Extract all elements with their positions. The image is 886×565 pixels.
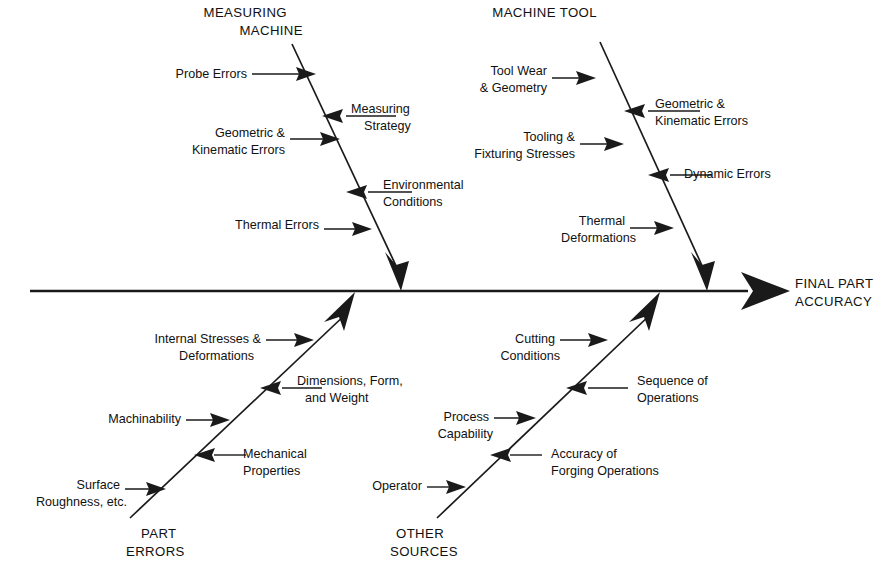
branch-arrowhead-part-errors: [324, 292, 355, 331]
cause-label-process-capability-line1: Process: [444, 410, 490, 424]
twig-arrowhead-geometric-kinematic-errors: [320, 132, 340, 146]
twig-arrowhead-probe-errors: [296, 67, 316, 81]
cause-label-environmental-conditions-line2: Conditions: [383, 195, 443, 209]
cause-label-dimensions-form-weight-line1: Dimensions, Form,: [297, 374, 403, 388]
cause-label-internal-stresses-deformations-line2: Deformations: [179, 349, 254, 363]
branch-arrowhead-measuring-machine: [385, 252, 409, 291]
cause-label-process-capability-line2: Capability: [438, 427, 494, 441]
twig-arrowhead-mechanical-properties: [194, 448, 215, 462]
branch-part-errors: [125, 292, 355, 518]
cause-label-internal-stresses-deformations-line1: Internal Stresses &: [155, 332, 262, 346]
cause-label-accuracy-of-forging-line1: Accuracy of: [551, 447, 617, 461]
twig-arrowhead-measuring-strategy: [322, 109, 343, 123]
cause-label-surface-roughness-line2: Roughness, etc.: [36, 495, 127, 509]
branch-arrowhead-other-sources: [629, 292, 660, 331]
category-title-other-sources-line2: SOURCES: [390, 544, 458, 559]
twig-arrowhead-tool-wear-geometry: [576, 71, 596, 85]
main-spine-group: [30, 272, 790, 310]
branch-other-sources: [427, 292, 660, 518]
twig-arrowhead-operator: [446, 480, 466, 494]
cause-label-geometric-kinematic-errors-mt-line1: Geometric &: [655, 97, 726, 111]
effect-label-line2: ACCURACY: [795, 294, 872, 309]
spine-arrowhead: [741, 272, 790, 310]
category-title-measuring-machine-line2: MACHINE: [239, 23, 303, 38]
cause-label-tooling-fixturing-stresses-line2: Fixturing Stresses: [474, 147, 575, 161]
cause-label-mechanical-properties-line2: Properties: [243, 464, 300, 478]
cause-label-thermal-deformations-line2: Deformations: [561, 231, 636, 245]
cause-label-sequence-of-operations-line1: Sequence of: [637, 374, 708, 388]
twig-arrowhead-environmental-conditions: [346, 185, 367, 199]
cause-label-geometric-kinematic-errors-line1: Geometric &: [215, 126, 286, 140]
twig-arrowhead-tooling-fixturing-stresses: [604, 137, 624, 151]
category-title-machine-tool-line1: MACHINE TOOL: [492, 5, 597, 20]
category-title-part-errors-line2: ERRORS: [126, 544, 185, 559]
category-title-measuring-machine-line1: MEASURING: [204, 5, 287, 20]
twig-arrowhead-internal-stresses-deformations: [294, 333, 314, 347]
cause-label-thermal-errors: Thermal Errors: [235, 218, 319, 232]
branch-arrowhead-machine-tool: [691, 252, 715, 291]
twig-arrowhead-cutting-conditions: [588, 333, 608, 347]
cause-label-geometric-kinematic-errors-mt-line2: Kinematic Errors: [655, 114, 748, 128]
fishbone-diagram: MEASURING MACHINE MACHINE TOOL PART ERRO…: [0, 0, 886, 565]
cause-label-operator: Operator: [372, 479, 422, 493]
cause-label-dynamic-errors: Dynamic Errors: [684, 167, 771, 181]
twig-arrowhead-thermal-deformations: [654, 221, 674, 235]
category-title-other-sources-line1: OTHER: [396, 526, 444, 541]
cause-label-accuracy-of-forging-line2: Forging Operations: [551, 464, 659, 478]
cause-label-geometric-kinematic-errors-line2: Kinematic Errors: [192, 143, 285, 157]
cause-label-tool-wear-geometry-line2: & Geometry: [480, 81, 548, 95]
cause-label-environmental-conditions-line1: Environmental: [383, 178, 464, 192]
cause-label-tool-wear-geometry-line1: Tool Wear: [491, 64, 547, 78]
twig-arrowhead-accuracy-of-forging: [490, 448, 511, 462]
twig-arrowhead-thermal-errors: [352, 222, 372, 236]
fishbone-canvas: MEASURING MACHINE MACHINE TOOL PART ERRO…: [0, 0, 886, 565]
branch-line-measuring-machine: [292, 44, 398, 270]
cause-label-cutting-conditions-line1: Cutting: [515, 332, 555, 346]
twig-arrowhead-machinability: [210, 413, 230, 427]
twig-arrowhead-process-capability: [516, 411, 536, 425]
cause-label-mechanical-properties-line1: Mechanical: [243, 447, 307, 461]
cause-label-measuring-strategy-line1: Measuring: [351, 102, 410, 116]
cause-label-cutting-conditions-line2: Conditions: [500, 349, 560, 363]
cause-label-measuring-strategy-line2: Strategy: [364, 119, 412, 133]
cause-label-dimensions-form-weight-line2: and Weight: [305, 391, 369, 405]
category-title-part-errors-line1: PART: [141, 526, 177, 541]
branch-measuring-machine: [252, 44, 412, 291]
cause-label-sequence-of-operations-line2: Operations: [637, 391, 699, 405]
cause-label-probe-errors: Probe Errors: [176, 67, 247, 81]
cause-label-tooling-fixturing-stresses-line1: Tooling &: [523, 130, 575, 144]
effect-label-line1: FINAL PART: [795, 276, 874, 291]
cause-label-thermal-deformations-line1: Thermal: [579, 214, 625, 228]
cause-label-machinability: Machinability: [108, 412, 181, 426]
cause-label-surface-roughness-line1: Surface: [77, 478, 120, 492]
